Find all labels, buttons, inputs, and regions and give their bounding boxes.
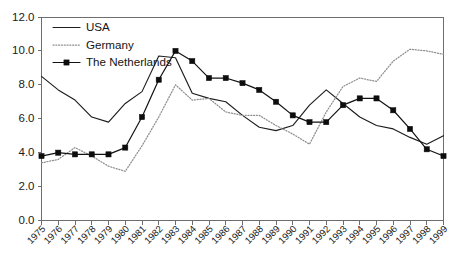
legend-marker [64,60,69,65]
data-point-marker [441,153,446,158]
data-point-marker [106,152,111,157]
data-point-marker [357,96,362,101]
y-tick-label: 6.0 [19,112,35,124]
data-point-marker [340,103,345,108]
data-point-marker [240,81,245,86]
data-point-marker [39,153,44,158]
data-point-marker [223,75,228,80]
line-chart: 0.02.04.06.08.010.012.0 1975197619771978… [0,0,459,271]
data-point-marker [324,120,329,125]
data-point-marker [72,152,77,157]
data-point-marker [257,87,262,92]
data-point-marker [56,150,61,155]
y-tick-label: 0.0 [19,214,35,226]
data-point-marker [139,114,144,119]
data-point-marker [307,120,312,125]
data-point-marker [89,152,94,157]
y-tick-label: 8.0 [19,78,35,90]
y-tick-label: 10.0 [12,44,34,56]
data-point-marker [123,145,128,150]
data-point-marker [273,99,278,104]
x-axis-ticks: 1975197619771978197919801981198219831984… [25,221,450,247]
legend-label-usa: USA [86,20,110,33]
data-point-marker [206,75,211,80]
data-point-marker [190,58,195,63]
y-tick-label: 12.0 [12,11,34,23]
legend-label-the-netherlands: The Netherlands [86,55,172,68]
x-tick-label: 1999 [427,223,450,246]
chart-legend: USAGermanyThe Netherlands [53,20,172,68]
data-point-marker [156,77,161,82]
data-point-marker [173,48,178,53]
y-axis-ticks: 0.02.04.06.08.010.012.0 [12,11,41,227]
chart-container: 0.02.04.06.08.010.012.0 1975197619771978… [0,0,459,271]
y-tick-label: 2.0 [19,180,35,192]
data-point-marker [391,108,396,113]
data-point-marker [290,113,295,118]
data-point-marker [407,126,412,131]
data-point-marker [424,147,429,152]
series-line-usa [42,56,444,144]
data-point-marker [374,96,379,101]
y-tick-label: 4.0 [19,146,35,158]
legend-label-germany: Germany [86,38,134,51]
